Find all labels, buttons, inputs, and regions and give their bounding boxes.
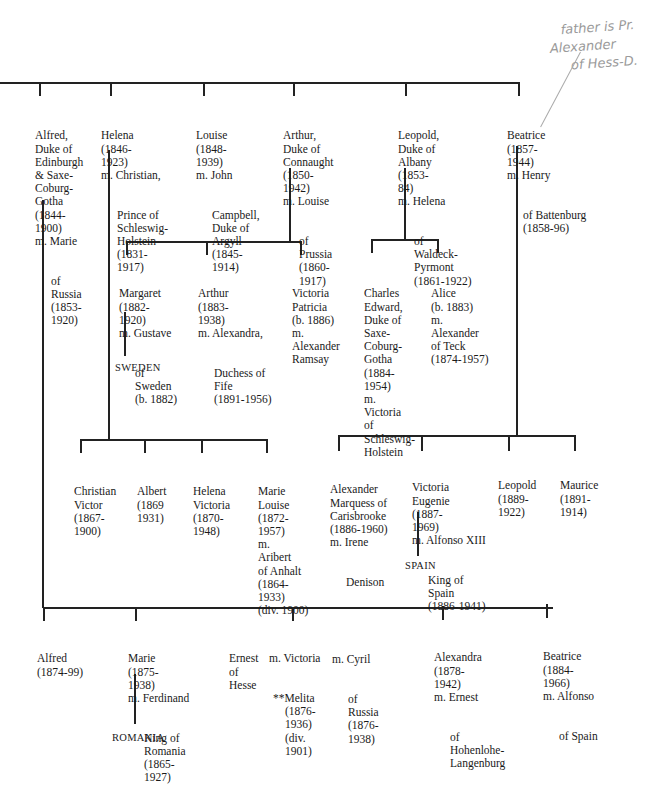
- text-line: (1848-: [196, 143, 260, 156]
- text-line: (1884-: [543, 664, 598, 677]
- person-leopold-battenberg: Leopold(1889-1922): [498, 453, 536, 532]
- text-line: Holstein: [101, 235, 168, 248]
- text-line: 1927): [128, 771, 189, 784]
- text-line: 1939): [196, 156, 260, 169]
- text-line: Beatrice: [543, 650, 598, 663]
- text-line: Victoria: [412, 481, 486, 494]
- text-line: m.: [258, 538, 308, 551]
- person-marie-louise: MarieLouise(1872-1957)m.Aribertof Anhalt…: [258, 459, 308, 631]
- text-line: Russia: [35, 288, 83, 301]
- text-line: Gotha: [364, 353, 415, 366]
- text-line: Hohenlohe-: [434, 744, 505, 757]
- person-alexandra: Alexandra(1878-1942)m. Ernest ofHohenloh…: [434, 625, 505, 783]
- text-line: Helena: [193, 485, 230, 498]
- text-line: Victoria: [364, 406, 415, 419]
- country-spain: SPAIN: [405, 560, 436, 571]
- text-line: of: [332, 693, 379, 706]
- drop-maurice: [574, 435, 576, 451]
- text-line: 1933): [258, 591, 308, 604]
- country-sweden: SWEDEN: [115, 362, 161, 373]
- text-line: Margaret: [119, 287, 177, 300]
- text-line: 1923): [101, 156, 168, 169]
- drop-arthur: [293, 82, 295, 96]
- text-line: Marquess of: [330, 497, 388, 510]
- text-line: m.: [364, 393, 415, 406]
- text-line: 1931): [137, 512, 166, 525]
- drop-helena-victoria: [201, 439, 203, 453]
- text-line: (1853-: [35, 301, 83, 314]
- text-line: (1876-: [269, 705, 320, 718]
- text-line: (1869: [137, 499, 166, 512]
- text-line: Alexander: [292, 340, 340, 353]
- person-alfred-jr: Alfred(1874-99): [37, 626, 83, 692]
- text-line: 1922): [498, 506, 536, 519]
- text-line: (b. 1882): [119, 393, 177, 406]
- text-line: Charles: [364, 287, 415, 300]
- text-line: Duke of: [35, 143, 83, 156]
- text-line: (1891-1956): [198, 393, 272, 406]
- text-line: (1876-: [332, 719, 379, 732]
- text-line: Denison: [330, 576, 388, 589]
- annotation-line: father is: [548, 18, 615, 38]
- text-line: m. Cyril: [332, 653, 379, 666]
- text-line: (1872-: [258, 512, 308, 525]
- text-line: m. Victoria: [269, 652, 320, 665]
- text-line: Alice: [431, 287, 489, 300]
- text-line: m. Ernest: [434, 691, 505, 704]
- text-line: (1845-: [196, 248, 260, 261]
- text-line: Louise: [196, 129, 260, 142]
- text-line: Coburg-: [35, 182, 83, 195]
- text-line: (1886-1960): [330, 523, 388, 536]
- text-line: m. Ferdinand: [128, 692, 189, 705]
- text-line: (1874-99): [37, 666, 83, 679]
- person-albert: Albert(18691931): [137, 459, 166, 538]
- text-line: m. Marie: [35, 235, 83, 248]
- drop-beatrice: [518, 82, 520, 96]
- text-line: 1966): [543, 677, 598, 690]
- text-line: m. John: [196, 169, 260, 182]
- text-line: Albert: [137, 485, 166, 498]
- text-line: m.: [292, 327, 340, 340]
- text-line: Patricia: [292, 301, 340, 314]
- drop-victoria-eugenie: [421, 435, 423, 451]
- text-line: of Teck: [431, 340, 489, 353]
- text-line: Alexandra: [434, 651, 505, 664]
- text-line: 1938): [198, 314, 272, 327]
- drop-alfred: [39, 82, 41, 96]
- text-line: Helena: [101, 129, 168, 142]
- text-line: Prussia: [283, 248, 333, 261]
- person-ernest-hesse: ErnestofHesse: [229, 626, 258, 705]
- text-line: Duke of: [398, 143, 472, 156]
- text-line: 1948): [193, 525, 230, 538]
- person-beatrice-edinburgh: Beatrice(1884-1966)m. Alfonso of Spain: [543, 624, 598, 756]
- text-line: 1920): [119, 314, 177, 327]
- text-line: (1886-1941): [412, 600, 486, 613]
- text-line: Duchess of: [198, 367, 272, 380]
- text-line: Victoria: [193, 499, 230, 512]
- person-helena-victoria: HelenaVictoria(1870-1948): [193, 459, 230, 551]
- drop-alexander: [338, 435, 340, 451]
- text-line: (1875-: [128, 666, 189, 679]
- person-cyril-russia: m. Cyril ofRussia(1876-1938): [332, 627, 379, 759]
- text-line: Prince of: [101, 209, 168, 222]
- text-line: (1883-: [198, 301, 272, 314]
- text-line: Marie: [258, 485, 308, 498]
- text-line: of: [364, 419, 415, 432]
- text-line: **Melita: [269, 692, 320, 705]
- text-line: 84): [398, 182, 472, 195]
- text-line: Louise: [258, 499, 308, 512]
- text-line: (1831-: [101, 248, 168, 261]
- person-christian-victor: ChristianVictor(1867-1900): [74, 459, 116, 551]
- text-line: Alfred,: [35, 129, 83, 142]
- text-line: (1891-: [560, 493, 598, 506]
- person-victoria-eugenie: VictoriaEugenie(1887-1969)m. Alfonso XII…: [412, 455, 486, 627]
- text-line: 1942): [434, 678, 505, 691]
- text-line: Langenburg: [434, 757, 505, 770]
- text-line: of Spain: [543, 730, 598, 743]
- text-line: m. Irene: [330, 536, 388, 549]
- text-line: m. Helena: [398, 195, 472, 208]
- text-line: Waldeck-: [398, 248, 472, 261]
- text-line: of: [283, 235, 333, 248]
- text-line: Carisbrooke: [330, 510, 388, 523]
- person-margaret: Margaret(1882-1920)m. Gustave ofSweden(b…: [119, 261, 177, 419]
